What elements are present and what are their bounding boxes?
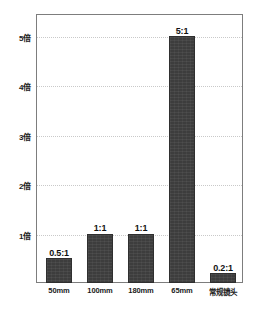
bar-value-180mm: 1:1 — [135, 223, 147, 233]
x-axis-tick-standard-lens: 常规镜头 — [209, 286, 237, 297]
gridline-3 — [37, 136, 242, 137]
y-axis-tick-1: 1倍 — [19, 229, 31, 240]
x-axis-tick-50mm: 50mm — [48, 286, 69, 295]
x-axis-labels: 50mm 100mm 180mm 65mm 常规镜头 — [36, 286, 243, 306]
y-axis-tick-4: 4倍 — [19, 81, 31, 92]
bar-group-180mm[interactable]: 1:1 — [128, 234, 154, 283]
bar-65mm[interactable] — [169, 36, 195, 283]
bar-value-standard-lens: 0.2:1 — [213, 263, 233, 273]
bar-chart: 5倍 4倍 3倍 2倍 1倍 0.5:1 1:1 1:1 5:1 — [0, 0, 256, 311]
bar-value-50mm: 0.5:1 — [49, 248, 69, 258]
bar-group-65mm[interactable]: 5:1 — [169, 36, 195, 283]
bar-100mm[interactable] — [87, 234, 113, 283]
x-axis-tick-65mm: 65mm — [171, 286, 192, 295]
gridline-4 — [37, 86, 242, 87]
bar-group-50mm[interactable]: 0.5:1 — [46, 258, 72, 283]
y-axis-tick-3: 3倍 — [19, 130, 31, 141]
gridline-2 — [37, 185, 242, 186]
bar-value-100mm: 1:1 — [94, 223, 106, 233]
x-axis-tick-180mm: 180mm — [128, 286, 153, 295]
y-axis-tick-2: 2倍 — [19, 180, 31, 191]
bar-group-100mm[interactable]: 1:1 — [87, 234, 113, 283]
gridline-5 — [37, 37, 242, 38]
bar-group-standard-lens[interactable]: 0.2:1 — [210, 273, 236, 283]
x-axis-tick-100mm: 100mm — [87, 286, 112, 295]
y-axis-tick-5: 5倍 — [19, 32, 31, 43]
y-axis-labels: 5倍 4倍 3倍 2倍 1倍 — [0, 0, 33, 311]
bar-standard-lens[interactable] — [210, 273, 236, 283]
bar-50mm[interactable] — [46, 258, 72, 283]
bar-180mm[interactable] — [128, 234, 154, 283]
bar-value-65mm: 5:1 — [176, 26, 188, 36]
